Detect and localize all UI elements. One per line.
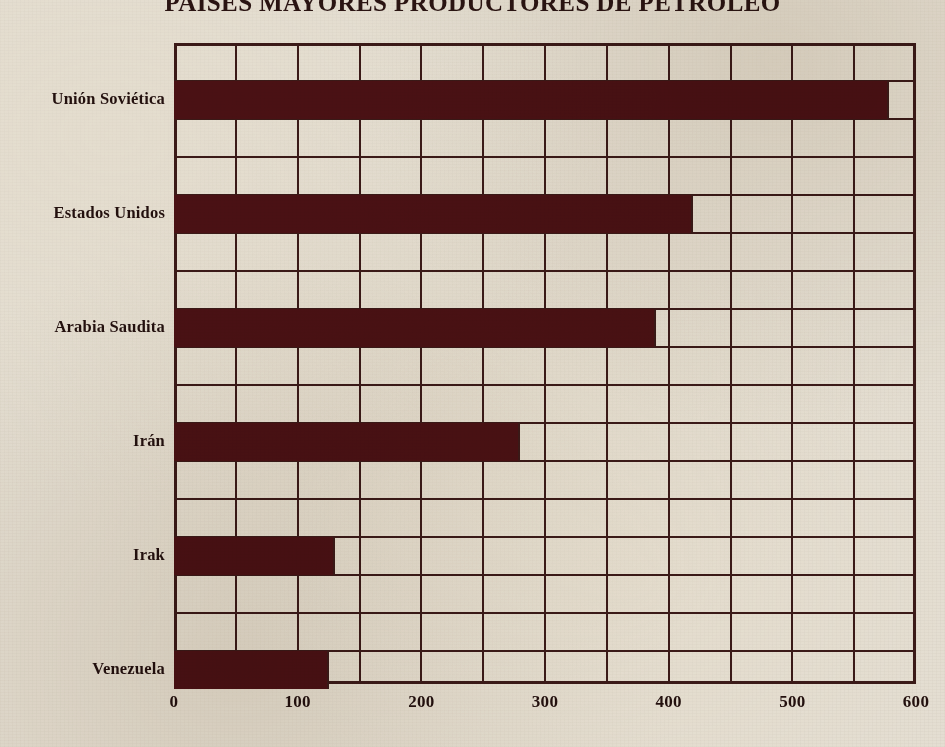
vertical-gridline: [853, 43, 855, 684]
vertical-gridline: [606, 43, 608, 684]
x-tick-label-0: 0: [170, 692, 179, 712]
vertical-gridline: [297, 43, 299, 684]
x-tick-label-100: 100: [284, 692, 310, 712]
bar-row: [174, 423, 916, 461]
x-tick-label-600: 600: [903, 692, 929, 712]
vertical-gridline: [235, 43, 237, 684]
category-label-2: Estados Unidos: [54, 203, 165, 223]
horizontal-gridline: [174, 612, 916, 614]
bar-5: [174, 537, 335, 575]
vertical-gridline: [730, 43, 732, 684]
bar-6: [174, 651, 329, 689]
vertical-gridline: [791, 43, 793, 684]
category-label-5: Irak: [133, 545, 165, 565]
category-label-1: Unión Soviética: [52, 89, 165, 109]
horizontal-gridline: [174, 270, 916, 272]
bar-row: [174, 537, 916, 575]
bar-row: [174, 651, 916, 689]
vertical-gridline: [544, 43, 546, 684]
bar-1: [174, 81, 889, 119]
bar-4: [174, 423, 520, 461]
x-tick-label-400: 400: [655, 692, 681, 712]
category-label-6: Venezuela: [92, 659, 165, 679]
horizontal-gridline: [174, 384, 916, 386]
vertical-gridline: [420, 43, 422, 684]
horizontal-gridline: [174, 156, 916, 158]
bar-row: [174, 309, 916, 347]
vertical-gridline: [668, 43, 670, 684]
plot-area: [174, 43, 916, 684]
bar-3: [174, 309, 656, 347]
vertical-gridline: [359, 43, 361, 684]
chart-title: PAÍSES MAYORES PRODUCTORES DE PETRÓLEO: [0, 0, 945, 17]
category-label-3: Arabia Saudita: [54, 317, 165, 337]
category-label-4: Irán: [133, 431, 165, 451]
horizontal-gridline: [174, 498, 916, 500]
x-tick-label-500: 500: [779, 692, 805, 712]
x-tick-label-300: 300: [532, 692, 558, 712]
bar-2: [174, 195, 693, 233]
bar-row: [174, 195, 916, 233]
vertical-gridline: [482, 43, 484, 684]
x-tick-label-200: 200: [408, 692, 434, 712]
bar-row: [174, 81, 916, 119]
